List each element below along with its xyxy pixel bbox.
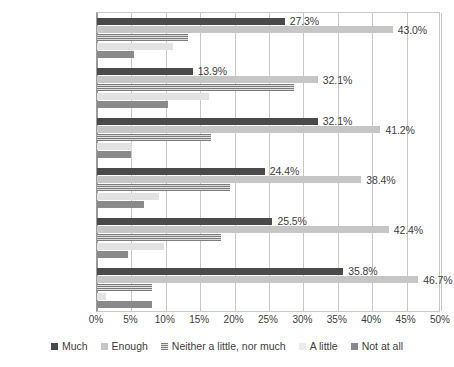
legend-label: Not at all — [362, 340, 403, 352]
bar-group: 35.8%46.7%Hazard — [97, 268, 439, 309]
bar-row: 41.2% — [97, 126, 439, 133]
bar-enough[interactable] — [97, 76, 318, 83]
bar-a-little[interactable] — [97, 243, 164, 250]
bar-row: 42.4% — [97, 226, 439, 233]
legend-swatch-icon — [161, 343, 168, 350]
legend-item-enough[interactable]: Enough — [101, 340, 148, 352]
x-tick-label: 0% — [89, 314, 103, 325]
legend-label: A little — [310, 340, 338, 352]
chart-legend: MuchEnoughNeither a little, nor muchA li… — [0, 340, 454, 352]
bar-group: 24.4%38.4%Exposure — [97, 168, 439, 209]
bar-row — [97, 51, 439, 58]
bar-a-little[interactable] — [97, 193, 159, 200]
bar-neither-a-little-nor-much[interactable] — [97, 234, 221, 241]
x-tick-label: 40% — [361, 314, 381, 325]
x-tick-label: 10% — [155, 314, 175, 325]
bar-much[interactable] — [97, 168, 265, 175]
bar-neither-a-little-nor-much[interactable] — [97, 134, 211, 141]
bar-row — [97, 134, 439, 141]
legend-item-a-little[interactable]: A little — [299, 340, 338, 352]
bar-row — [97, 284, 439, 291]
bar-row: 35.8% — [97, 268, 439, 275]
bar-row — [97, 251, 439, 258]
bar-row — [97, 201, 439, 208]
bar-much[interactable] — [97, 68, 193, 75]
bar-row: 25.5% — [97, 218, 439, 225]
bar-not-at-all[interactable] — [97, 51, 134, 58]
x-tick-label: 20% — [224, 314, 244, 325]
legend-item-much[interactable]: Much — [51, 340, 88, 352]
bar-row — [97, 193, 439, 200]
bar-not-at-all[interactable] — [97, 101, 168, 108]
bar-much[interactable] — [97, 118, 318, 125]
bar-not-at-all[interactable] — [97, 151, 131, 158]
bar-a-little[interactable] — [97, 293, 106, 300]
bar-row — [97, 93, 439, 100]
bar-row — [97, 143, 439, 150]
bar-group: 32.1%41.2%Level of alert — [97, 118, 439, 159]
bar-row — [97, 84, 439, 91]
bar-row — [97, 293, 439, 300]
bar-enough[interactable] — [97, 126, 380, 133]
bar-row: 32.1% — [97, 76, 439, 83]
legend-item-neither-a-little-nor-much[interactable]: Neither a little, nor much — [161, 340, 286, 352]
bar-neither-a-little-nor-much[interactable] — [97, 84, 294, 91]
bar-not-at-all[interactable] — [97, 201, 144, 208]
legend-swatch-icon — [299, 343, 306, 350]
bar-not-at-all[interactable] — [97, 301, 152, 308]
legend-swatch-icon — [351, 343, 358, 350]
gridline-50pct — [441, 13, 442, 311]
bar-row: 46.7% — [97, 276, 439, 283]
bar-row: 13.9% — [97, 68, 439, 75]
bar-row — [97, 43, 439, 50]
bar-group: 27.3%43.0%Risk perception — [97, 18, 439, 59]
x-tick-label: 5% — [123, 314, 137, 325]
bar-neither-a-little-nor-much[interactable] — [97, 284, 152, 291]
legend-item-not-at-all[interactable]: Not at all — [351, 340, 403, 352]
bar-a-little[interactable] — [97, 143, 132, 150]
legend-swatch-icon — [101, 343, 108, 350]
bar-neither-a-little-nor-much[interactable] — [97, 184, 230, 191]
x-tick-label: 30% — [292, 314, 312, 325]
x-tick-label: 50% — [430, 314, 450, 325]
plot-area: 27.3%43.0%Risk perception13.9%32.1%Socia… — [96, 12, 440, 312]
legend-label: Much — [62, 340, 88, 352]
bar-much[interactable] — [97, 268, 343, 275]
x-axis: 0%5%10%15%20%25%30%35%40%45%50% — [96, 314, 440, 330]
bar-enough[interactable] — [97, 176, 361, 183]
bar-row — [97, 234, 439, 241]
bar-enough[interactable] — [97, 26, 393, 33]
bar-row — [97, 184, 439, 191]
bar-group: 13.9%32.1%Social acceptance of risk — [97, 68, 439, 109]
bar-row — [97, 151, 439, 158]
legend-label: Neither a little, nor much — [172, 340, 286, 352]
x-tick-label: 35% — [327, 314, 347, 325]
bar-row — [97, 101, 439, 108]
bar-a-little[interactable] — [97, 93, 209, 100]
bar-row — [97, 243, 439, 250]
bar-row — [97, 301, 439, 308]
bar-row: 38.4% — [97, 176, 439, 183]
x-tick-label: 15% — [189, 314, 209, 325]
bar-row — [97, 34, 439, 41]
bar-much[interactable] — [97, 218, 272, 225]
bar-chart: 27.3%43.0%Risk perception13.9%32.1%Socia… — [0, 0, 454, 367]
bar-enough[interactable] — [97, 276, 418, 283]
x-tick-label: 45% — [396, 314, 416, 325]
bar-row: 27.3% — [97, 18, 439, 25]
x-tick-label: 25% — [258, 314, 278, 325]
bar-row: 43.0% — [97, 26, 439, 33]
legend-swatch-icon — [51, 343, 58, 350]
bar-neither-a-little-nor-much[interactable] — [97, 34, 188, 41]
bar-group: 25.5%42.4%Vulnerability — [97, 218, 439, 259]
bar-a-little[interactable] — [97, 43, 173, 50]
bar-much[interactable] — [97, 18, 285, 25]
bar-not-at-all[interactable] — [97, 251, 128, 258]
bar-enough[interactable] — [97, 226, 389, 233]
legend-label: Enough — [112, 340, 148, 352]
